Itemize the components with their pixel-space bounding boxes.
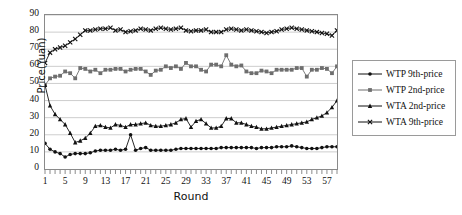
legend-item[interactable]: WTP 9th-price: [357, 66, 451, 82]
series-wta-9th-price: [45, 26, 337, 65]
y-tick-label: 0: [13, 163, 39, 173]
legend-label: WTA 2nd-price: [383, 101, 445, 111]
legend-item[interactable]: WTA 9th-price: [357, 114, 451, 130]
legend: WTP 9th-priceWTP 2nd-priceWTA 2nd-priceW…: [352, 60, 456, 136]
plot-area: [44, 14, 338, 170]
legend-marker-square-icon: [357, 84, 383, 96]
legend-label: WTP 2nd-price: [383, 85, 444, 95]
x-tick-label: 17: [116, 177, 136, 187]
x-tick-label: 57: [317, 177, 337, 187]
x-tick-label: 1: [35, 177, 55, 187]
plot-svg: [45, 15, 337, 169]
legend-marker-triangle-icon: [357, 100, 383, 112]
x-tick-label: 33: [196, 177, 216, 187]
y-tick-label: 10: [13, 146, 39, 156]
x-tick-label: 21: [136, 177, 156, 187]
x-tick-label: 49: [277, 177, 297, 187]
y-tick-label: 20: [13, 129, 39, 139]
y-tick-label: 90: [13, 9, 39, 19]
legend-label: WTA 9th-price: [383, 117, 443, 127]
series-wta-2nd-price: [45, 83, 337, 145]
x-axis-title: Round: [44, 190, 338, 203]
legend-marker-cross-icon: [357, 116, 383, 128]
x-tick-label: 41: [236, 177, 256, 187]
x-tick-label: 29: [176, 177, 196, 187]
x-tick-label: 37: [216, 177, 236, 187]
legend-marker-diamond-icon: [357, 68, 383, 80]
x-tick-label: 53: [297, 177, 317, 187]
y-tick-label: 30: [13, 112, 39, 122]
series-wtp-2nd-price: [45, 53, 337, 87]
x-tick-label: 13: [95, 177, 115, 187]
x-tick-label: 45: [257, 177, 277, 187]
y-axis-title: Price(Yuan): [36, 21, 47, 111]
x-tick-label: 25: [156, 177, 176, 187]
x-tick-label: 9: [75, 177, 95, 187]
chart-figure: 0102030405060708090 15913172125293337414…: [0, 0, 462, 215]
legend-label: WTP 9th-price: [383, 69, 442, 79]
x-tick-label: 5: [55, 177, 75, 187]
legend-item[interactable]: WTA 2nd-price: [357, 98, 451, 114]
series-wtp-9th-price: [45, 133, 337, 159]
x-axis-tick-marks: [44, 170, 338, 177]
legend-item[interactable]: WTP 2nd-price: [357, 82, 451, 98]
